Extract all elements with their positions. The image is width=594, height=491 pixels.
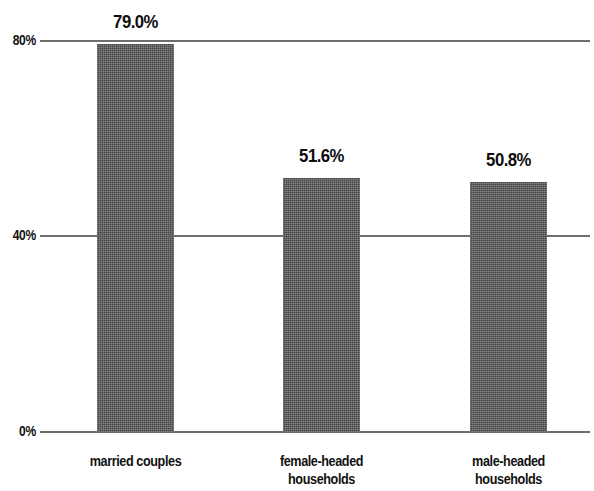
- category-label-male-headed-households: male-headedhouseholds: [439, 453, 577, 488]
- bar-married-couples[interactable]: [97, 44, 174, 432]
- y-tick-label-80: 80%: [7, 32, 36, 48]
- category-label-line-2: households: [288, 471, 355, 487]
- bar-male-headed-households[interactable]: [470, 182, 547, 432]
- gridline-80: [40, 40, 590, 42]
- y-tick-label-40: 40%: [7, 227, 36, 243]
- category-label-female-headed-households: female-headedhouseholds: [252, 453, 390, 488]
- y-tick-label-0: 0%: [7, 423, 36, 439]
- plot-area: 80% 40% 0% 79.0% married couples 51.6% f…: [0, 0, 594, 491]
- bar-value-label-male-headed-households: 50.8%: [465, 149, 552, 171]
- category-label-line-1: male-headed: [472, 453, 545, 469]
- category-label-married-couples: married couples: [66, 453, 204, 471]
- bar-value-label-female-headed-households: 51.6%: [278, 145, 365, 167]
- bar-female-headed-households[interactable]: [283, 178, 360, 432]
- bar-chart: 80% 40% 0% 79.0% married couples 51.6% f…: [0, 0, 594, 491]
- category-label-line-1: female-headed: [280, 453, 363, 469]
- category-label-line-2: households: [475, 471, 542, 487]
- bar-value-label-married-couples: 79.0%: [92, 11, 179, 33]
